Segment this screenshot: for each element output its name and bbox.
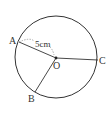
dimension-dash-right: [50, 47, 54, 55]
label-C: C: [99, 55, 106, 66]
diagram-svg: A 5cm O B C: [0, 0, 112, 119]
dimension-dash-left: [19, 39, 34, 42]
label-B: B: [28, 93, 35, 104]
label-A: A: [9, 35, 17, 46]
label-O: O: [53, 60, 60, 71]
circle-diagram: A 5cm O B C: [0, 0, 112, 119]
radius-OC: [56, 58, 98, 60]
center-point: [55, 57, 58, 60]
label-measurement: 5cm: [35, 39, 51, 49]
